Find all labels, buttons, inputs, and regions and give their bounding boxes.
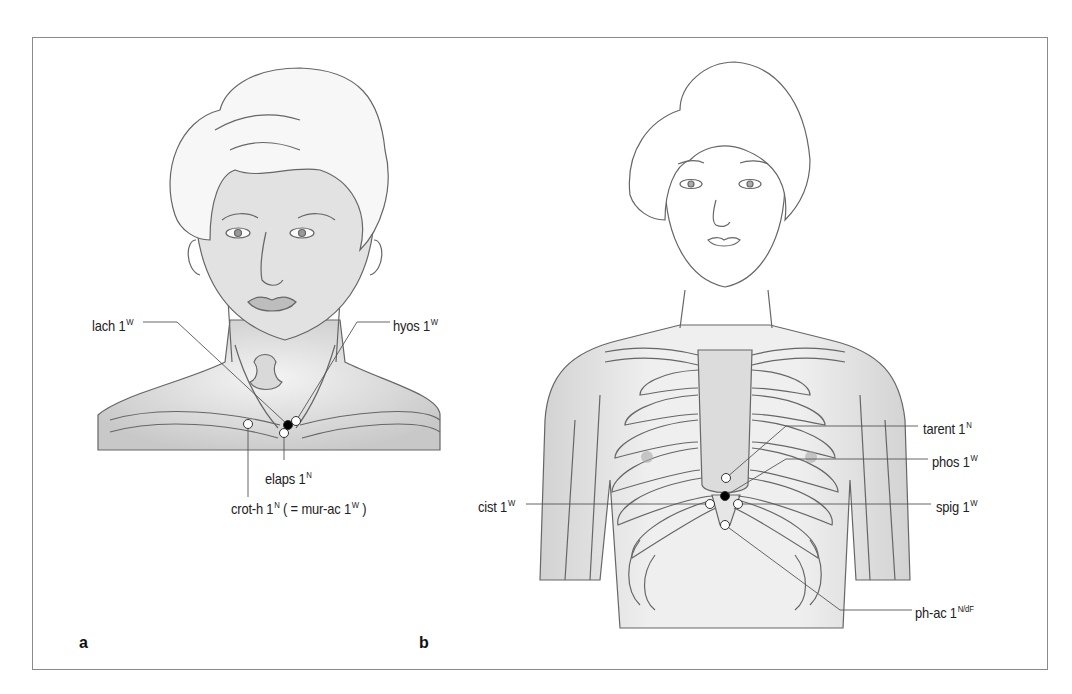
point-spig [734, 500, 743, 509]
label-spig: spig 1W [936, 494, 977, 516]
label-phos: phos 1W [932, 449, 978, 471]
label-elaps: elaps 1N [265, 466, 312, 488]
label-tarent: tarent 1N [923, 416, 972, 438]
label-lach: lach 1W [92, 313, 133, 335]
label-crot-h: crot-h 1N ( = mur-ac 1W ) [231, 496, 366, 518]
point-tarent [722, 474, 731, 483]
label-cist: cist 1W [478, 494, 515, 516]
point-ph-ac [721, 521, 730, 530]
panel-b-figure [540, 62, 910, 628]
point-lach [284, 421, 293, 430]
panel-letter-a: a [79, 634, 88, 652]
panel-a-figure [98, 68, 440, 450]
point-phos [721, 492, 730, 501]
point-crot-h [244, 420, 253, 429]
label-ph-ac: ph-ac 1N/dF [915, 600, 974, 622]
figure-artwork [0, 0, 1072, 694]
panel-letter-b: b [419, 634, 429, 652]
point-cist [706, 500, 715, 509]
label-hyos: hyos 1W [393, 313, 438, 335]
